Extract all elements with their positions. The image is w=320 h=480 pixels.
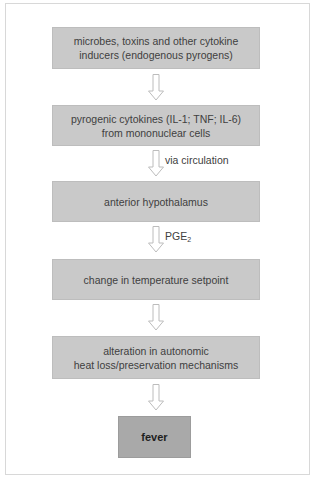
edge-label-subscript: 2 (187, 236, 191, 243)
edge-label-pge2: PGE2 (165, 230, 191, 243)
node-pyrogenic-cytokines: pyrogenic cytokines (IL-1; TNF; IL-6) fr… (52, 105, 260, 146)
down-arrow-icon (148, 304, 164, 331)
node-fever: fever (118, 416, 191, 458)
edge-label-via-circulation: via circulation (165, 154, 229, 166)
node-temperature-setpoint: change in temperature setpoint (52, 259, 260, 300)
down-arrow-icon (148, 74, 164, 101)
down-arrow-icon (148, 226, 164, 253)
node-anterior-hypothalamus: anterior hypothalamus (52, 181, 260, 222)
node-autonomic-mechanisms: alteration in autonomic heat loss/preser… (52, 336, 260, 379)
edge-label-pge: PGE (165, 230, 187, 242)
node-endogenous-pyrogens: microbes, toxins and other cytokine indu… (52, 27, 260, 69)
down-arrow-icon (148, 150, 164, 177)
down-arrow-icon (148, 384, 164, 411)
